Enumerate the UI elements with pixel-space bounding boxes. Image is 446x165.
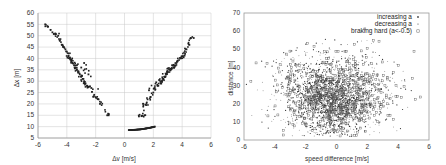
data-point-braking (353, 84, 355, 86)
data-point (358, 130, 359, 131)
data-point (308, 79, 309, 80)
data-point (329, 125, 330, 126)
data-point (338, 72, 339, 73)
data-point (334, 122, 335, 123)
data-point (343, 93, 344, 94)
data-point (270, 99, 271, 100)
data-point (356, 84, 357, 85)
data-point (293, 77, 294, 78)
data-point-braking (412, 78, 414, 80)
data-point (303, 105, 304, 106)
data-point (60, 38, 62, 40)
data-point (300, 62, 301, 63)
data-point (291, 93, 292, 94)
data-point (317, 125, 318, 126)
data-point (67, 57, 69, 59)
data-point (59, 40, 61, 42)
data-point (378, 84, 379, 85)
data-point (328, 69, 329, 70)
data-point (307, 81, 308, 82)
legend: increasing a decreasing a braking hard (… (351, 13, 419, 35)
data-point (335, 89, 336, 90)
data-point (183, 52, 185, 54)
data-point (365, 103, 366, 104)
data-point (274, 116, 275, 117)
data-point (349, 119, 350, 120)
data-point (350, 66, 351, 67)
y-tick-label: 45 (27, 43, 35, 50)
data-point (281, 120, 282, 121)
data-point (187, 46, 189, 48)
data-point (286, 94, 287, 95)
data-point (179, 57, 181, 59)
y-tick-label: 50 (27, 32, 35, 39)
data-point (328, 80, 329, 81)
data-point (346, 99, 347, 100)
data-point (265, 114, 266, 115)
data-point (315, 86, 316, 87)
data-point (61, 44, 63, 46)
data-point (285, 122, 286, 123)
data-point (361, 103, 362, 104)
data-point (312, 82, 313, 83)
data-point (368, 100, 369, 101)
data-point (297, 91, 298, 92)
right-x-tick-labels: -6-4-20246 (241, 143, 431, 150)
data-point (329, 114, 330, 115)
data-point (320, 128, 321, 129)
data-point-braking (255, 62, 257, 64)
data-point (353, 88, 354, 89)
data-point (359, 115, 360, 116)
data-point (330, 93, 331, 94)
data-point (326, 77, 327, 78)
data-point (324, 105, 325, 106)
data-point (308, 104, 309, 105)
data-point (345, 58, 346, 59)
data-point (360, 101, 361, 102)
data-point (319, 104, 320, 105)
data-point-braking (351, 88, 353, 90)
data-point (320, 131, 321, 132)
data-point (319, 106, 320, 107)
data-point (261, 121, 262, 122)
data-point (344, 107, 345, 108)
data-point (300, 67, 301, 68)
data-point (276, 59, 277, 60)
data-point (284, 58, 285, 59)
data-point (315, 105, 316, 106)
data-point (293, 128, 294, 129)
data-point (346, 96, 347, 97)
data-point (333, 132, 334, 133)
data-point (375, 119, 376, 120)
data-point (311, 85, 312, 86)
data-point (330, 81, 331, 82)
data-point (296, 117, 297, 118)
data-point (304, 83, 305, 84)
data-point (295, 120, 296, 121)
data-point (365, 93, 366, 94)
data-point (139, 114, 141, 116)
data-point (184, 55, 186, 57)
data-point (336, 91, 337, 92)
data-point (364, 79, 365, 80)
data-point-braking (354, 81, 356, 83)
data-point (343, 116, 344, 117)
data-point (338, 77, 339, 78)
data-point (362, 118, 363, 119)
data-point (327, 102, 328, 103)
data-point (321, 106, 322, 107)
data-point (329, 102, 330, 103)
data-point (327, 71, 328, 72)
y-tick-label: 15 (27, 111, 35, 118)
data-point (328, 100, 329, 101)
data-point (307, 68, 308, 69)
data-point (307, 87, 308, 88)
data-point (74, 63, 76, 65)
data-point (366, 78, 367, 79)
right-scatter-chart: 010203040506070 -6-4-20246 speed differe… (223, 0, 446, 165)
data-point (396, 104, 397, 105)
data-point (261, 109, 262, 110)
data-point (293, 82, 294, 83)
data-point (322, 73, 323, 74)
data-point (319, 69, 320, 70)
